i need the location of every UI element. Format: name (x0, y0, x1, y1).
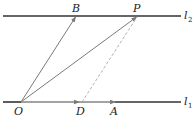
label-l1-subscript: 1 (188, 102, 192, 110)
label-D: D (75, 105, 85, 118)
vector-OB (21, 17, 76, 102)
label-P: P (132, 2, 141, 15)
geometry-diagram: B P O D A l 2 l 1 (0, 0, 196, 129)
label-B: B (71, 2, 80, 15)
vector-OP (21, 17, 137, 102)
label-A: A (109, 105, 118, 118)
label-l2-subscript: 2 (188, 16, 192, 24)
label-O: O (14, 105, 23, 118)
diagram-svg: B P O D A l 2 l 1 (0, 0, 196, 129)
dashed-DP (82, 17, 137, 102)
